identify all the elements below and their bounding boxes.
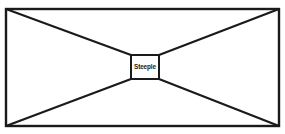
diagram-canvas-svg bbox=[0, 0, 285, 134]
center-rectangle bbox=[131, 55, 159, 79]
steeple-diagram: Steeple bbox=[0, 0, 285, 134]
